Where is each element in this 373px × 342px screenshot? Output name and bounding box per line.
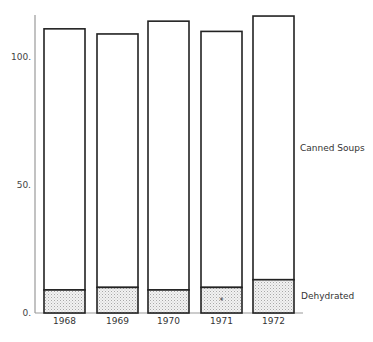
segment-canned-soups (44, 29, 85, 290)
legend-dehydrated: Dehydrated (301, 291, 354, 301)
x-tick-label: 1969 (106, 316, 129, 326)
y-tick-label: 0. (22, 308, 31, 318)
bar-1972 (253, 16, 294, 313)
y-tick-label: 50. (17, 180, 31, 190)
bar-1968 (44, 29, 85, 313)
x-tick-label: 1968 (53, 316, 76, 326)
segment-canned-soups (201, 31, 242, 287)
bar-1971 (201, 31, 242, 313)
y-tick-label: 100. (11, 52, 31, 62)
legend-canned-soups: Canned Soups (300, 143, 365, 153)
annotation-asterisk: * (220, 297, 224, 306)
segment-dehydrated (253, 280, 294, 313)
x-tick-label: 1970 (157, 316, 180, 326)
bar-1970 (148, 21, 189, 313)
segment-dehydrated (44, 290, 85, 313)
stacked-bar-chart: 0.50.100.19681969197019711972*Canned Sou… (0, 0, 373, 342)
segment-dehydrated (97, 287, 138, 313)
segment-dehydrated (148, 290, 189, 313)
x-tick-label: 1972 (262, 316, 285, 326)
bars (44, 16, 294, 313)
bar-1969 (97, 34, 138, 313)
segment-canned-soups (97, 34, 138, 287)
x-tick-label: 1971 (210, 316, 233, 326)
segment-canned-soups (148, 21, 189, 290)
segment-canned-soups (253, 16, 294, 280)
